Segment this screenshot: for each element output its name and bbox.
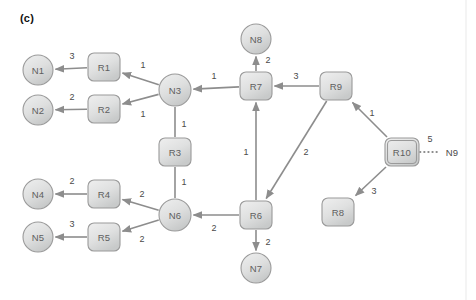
edge-r7-to-n3 [193,87,239,89]
node-label-n5: N5 [32,232,45,243]
node-label-r2: R2 [98,104,111,115]
edge-weight-r6-n6: 2 [211,223,216,233]
node-n1[interactable]: N1 [23,55,53,85]
edge-weight-r7-n3: 1 [211,71,216,81]
node-label-n9: N9 [446,147,459,158]
edge-weight-r5-n5: 3 [69,219,74,229]
edge-r1-to-n1 [55,68,87,69]
node-label-n4: N4 [32,189,45,200]
edge-weight-n6-r4: 2 [139,189,144,199]
edge-weight-n3-r1: 1 [140,60,145,70]
edge-weight-r1-n1: 3 [69,51,74,61]
edge-weight-r10-r8: 3 [371,186,376,196]
edge-weight-n3-r3: 1 [181,119,186,129]
node-r8[interactable]: R8 [322,198,354,226]
node-n6[interactable]: N6 [159,199,191,231]
node-label-n8: N8 [250,34,263,45]
graph-svg: N1N2N4N5N3N6N7N8N9R1R2R3R4R5R6R7R8R9R10 … [0,0,476,300]
node-label-r3: R3 [169,147,182,158]
edge-weight-r4-n4: 2 [69,176,74,186]
node-r6[interactable]: R6 [240,201,272,229]
edge-weight-n6-r5: 2 [139,234,144,244]
node-label-n1: N1 [32,65,45,76]
edge-weight-n3-r2: 1 [140,109,145,119]
node-label-n2: N2 [32,105,45,116]
node-label-r4: R4 [98,189,111,200]
edge-n3-to-r2 [123,94,159,104]
node-n2[interactable]: N2 [23,95,53,125]
node-n3[interactable]: N3 [159,74,191,106]
node-r2[interactable]: R2 [88,95,120,123]
node-r7[interactable]: R7 [240,72,272,100]
edge-weight-r9-r7: 3 [293,71,298,81]
node-label-r7: R7 [250,81,263,92]
figure-canvas: (c) N1N2N4N5N3N6N7N8N9R1R2R3R4R5R6R7R8R9… [0,0,476,300]
node-label-n7: N7 [250,263,263,274]
node-r1[interactable]: R1 [88,53,120,81]
node-n8[interactable]: N8 [241,24,271,54]
edge-r9-to-r6 [266,101,326,199]
node-label-r1: R1 [98,62,111,73]
node-n5[interactable]: N5 [23,222,53,252]
edge-weight-r6-n7: 2 [265,237,270,247]
node-label-n3: N3 [169,85,182,96]
edge-n6-to-r5 [123,220,159,231]
edge-weight-r7-n8: 2 [265,55,270,65]
edge-weight-r10-r9: 1 [369,108,374,118]
node-r5[interactable]: R5 [88,223,120,251]
edge-weight-r2-n2: 2 [69,92,74,102]
node-r9[interactable]: R9 [320,72,352,100]
node-r10[interactable]: R10 [385,138,419,166]
node-n4[interactable]: N4 [23,179,53,209]
edge-weight-r9-r6: 2 [303,147,308,157]
node-label-n6: N6 [169,210,182,221]
edge-weight-r10-n9: 5 [427,134,432,144]
node-label-r5: R5 [98,232,111,243]
node-n7[interactable]: N7 [241,253,271,283]
node-label-r6: R6 [250,210,263,221]
node-label-r9: R9 [330,81,343,92]
edge-n3-to-r1 [123,73,159,85]
node-r4[interactable]: R4 [88,180,120,208]
node-label-r10: R10 [393,147,411,158]
edge-n6-to-r4 [123,199,159,210]
node-label-r8: R8 [332,207,345,218]
edge-weight-r6-r7: 1 [243,147,248,157]
edge-weight-r3-n6: 1 [181,177,186,187]
node-n9[interactable]: N9 [446,147,459,158]
nodes-layer: N1N2N4N5N3N6N7N8N9R1R2R3R4R5R6R7R8R9R10 [23,24,458,283]
node-r3[interactable]: R3 [159,138,191,166]
